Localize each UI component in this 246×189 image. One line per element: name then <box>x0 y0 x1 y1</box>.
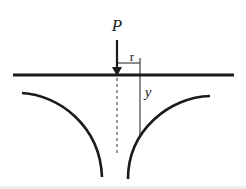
depth-label: y <box>143 84 152 100</box>
left-distribution-curve <box>22 93 102 177</box>
diagram-canvas: P r y <box>0 0 246 189</box>
bottom-edge-strip <box>0 186 246 189</box>
load-label: P <box>111 16 122 35</box>
radius-label: r <box>130 49 135 64</box>
